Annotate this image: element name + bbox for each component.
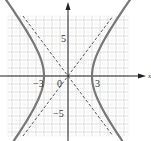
tick-neg5: −5: [53, 108, 64, 119]
y-axis-arrow-icon: [66, 2, 71, 10]
tick-0: 0: [57, 78, 62, 89]
tick-5: 5: [61, 33, 66, 44]
x-axis-label: x: [147, 72, 151, 80]
tick-3: 3: [95, 78, 100, 89]
tick-neg3: −3: [33, 78, 44, 89]
hyperbola-chart: −3 0 3 5 −5 x: [0, 0, 151, 141]
x-axis-arrow-icon: [138, 74, 146, 79]
